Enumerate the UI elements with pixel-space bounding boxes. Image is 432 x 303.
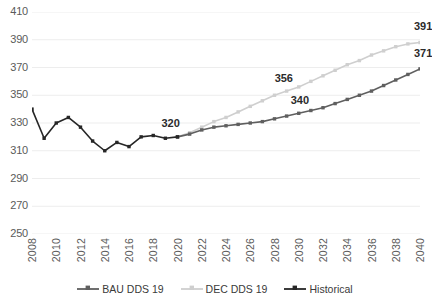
series-marker (236, 123, 239, 126)
y-axis-tick-label: 370 (0, 61, 28, 73)
x-axis-tick-label: 2034 (341, 238, 353, 262)
legend-item-label: Historical (309, 283, 352, 295)
x-axis-tick-label: 2026 (244, 238, 256, 262)
plot-area (32, 12, 420, 234)
data-label: 371 (414, 47, 432, 59)
series-marker (139, 135, 142, 138)
series-marker (285, 114, 288, 117)
series-marker (224, 124, 227, 127)
series-marker (382, 49, 385, 52)
series-marker (297, 112, 300, 115)
series-marker (127, 145, 130, 148)
series-marker (42, 137, 45, 140)
series-marker (285, 89, 288, 92)
x-axis-tick-label: 2020 (172, 238, 184, 262)
y-axis-tick-label: 330 (0, 116, 28, 128)
x-axis-tick-label: 2022 (196, 238, 208, 262)
series-marker (358, 94, 361, 97)
data-label: 320 (162, 117, 180, 129)
series-marker (406, 42, 409, 45)
series-marker (67, 116, 70, 119)
series-marker (370, 53, 373, 56)
x-axis-tick-label: 2024 (220, 238, 232, 262)
x-axis-tick-label: 2008 (26, 238, 38, 262)
legend-item-dec-dds-19[interactable]: DEC DDS 19 (181, 283, 268, 295)
y-axis-tick-label: 290 (0, 172, 28, 184)
chart-plot-svg (32, 12, 420, 234)
series-marker (297, 85, 300, 88)
x-axis-tick-label: 2038 (390, 238, 402, 262)
chart-legend: BAU DDS 19DEC DDS 19Historical (0, 283, 430, 295)
legend-item-label: DEC DDS 19 (206, 283, 268, 295)
series-marker (333, 102, 336, 105)
series-marker (55, 121, 58, 124)
series-marker (321, 106, 324, 109)
x-axis-tick-label: 2036 (366, 238, 378, 262)
series-marker (418, 41, 420, 44)
series-marker (224, 116, 227, 119)
legend-key-swatch (284, 284, 306, 294)
series-marker (200, 128, 203, 131)
series-marker (249, 105, 252, 108)
series-marker (176, 135, 179, 138)
y-axis-tick-label: 410 (0, 5, 28, 17)
series-marker (273, 94, 276, 97)
y-axis-tick-label: 310 (0, 144, 28, 156)
series-marker (406, 73, 409, 76)
series-marker (309, 109, 312, 112)
series-marker (346, 98, 349, 101)
series-marker (370, 89, 373, 92)
series-marker (261, 120, 264, 123)
series-marker (212, 120, 215, 123)
series-marker (249, 121, 252, 124)
x-axis-tick-label: 2010 (50, 238, 62, 262)
legend-item-bau-dds-19[interactable]: BAU DDS 19 (77, 283, 163, 295)
series-marker (236, 110, 239, 113)
series-marker (32, 107, 34, 110)
series-marker (382, 84, 385, 87)
y-axis-tick-label: 390 (0, 33, 28, 45)
x-axis-tick-label: 2014 (99, 238, 111, 262)
x-axis-tick-label: 2030 (293, 238, 305, 262)
y-axis-tick-label: 270 (0, 199, 28, 211)
series-marker (321, 74, 324, 77)
series-line-historical (32, 109, 178, 151)
series-marker (333, 69, 336, 72)
y-axis-tick-label: 350 (0, 88, 28, 100)
series-marker (394, 78, 397, 81)
x-axis-tick-label: 2028 (269, 238, 281, 262)
x-axis-tick-label: 2016 (123, 238, 135, 262)
series-marker (188, 132, 191, 135)
series-marker (273, 117, 276, 120)
series-marker (394, 45, 397, 48)
series-marker (79, 125, 82, 128)
x-axis-tick-label: 2012 (75, 238, 87, 262)
data-label: 391 (414, 20, 432, 32)
x-axis-tick-label: 2032 (317, 238, 329, 262)
series-marker (418, 67, 420, 70)
series-marker (115, 141, 118, 144)
series-marker (91, 139, 94, 142)
series-marker (164, 137, 167, 140)
data-label: 340 (291, 94, 309, 106)
series-marker (261, 99, 264, 102)
series-marker (358, 59, 361, 62)
series-marker (212, 125, 215, 128)
legend-item-label: BAU DDS 19 (102, 283, 163, 295)
data-label: 356 (275, 72, 293, 84)
x-axis-tick-label: 2018 (147, 238, 159, 262)
legend-key-swatch (77, 284, 99, 294)
series-marker (152, 134, 155, 137)
series-marker (346, 63, 349, 66)
y-axis-tick-label: 250 (0, 227, 28, 239)
legend-key-swatch (181, 284, 203, 294)
series-marker (309, 80, 312, 83)
series-marker (103, 149, 106, 152)
x-axis-tick-label: 2040 (414, 238, 426, 262)
legend-item-historical[interactable]: Historical (284, 283, 352, 295)
